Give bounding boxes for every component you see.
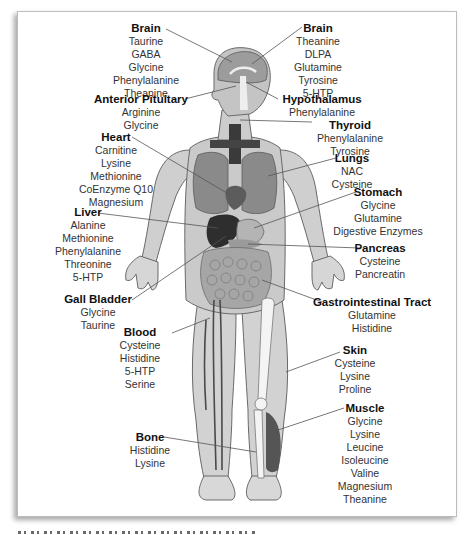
- label-title: Brain: [113, 22, 179, 35]
- label-item: Digestive Enzymes: [333, 225, 422, 238]
- label-gastrointestinal-tract: Gastrointestinal Tract Glutamine Histidi…: [313, 296, 431, 335]
- label-muscle: Muscle Glycine Lysine Leucine Isoleucine…: [338, 402, 392, 506]
- label-item: Theanine: [294, 35, 342, 48]
- label-bone: Bone Histidine Lysine: [130, 431, 170, 470]
- label-item: Glycine: [338, 415, 392, 428]
- intestines: [201, 248, 272, 309]
- label-item: Serine: [120, 378, 161, 391]
- label-item: Glycine: [113, 61, 179, 74]
- label-item: Arginine: [94, 106, 188, 119]
- label-liver: Liver Alanine Methionine Phenylalanine T…: [55, 206, 121, 284]
- label-pancreas: Pancreas Cysteine Pancreatin: [354, 242, 405, 281]
- label-title: Bone: [130, 431, 170, 444]
- label-item: Theanine: [338, 493, 392, 506]
- label-item: Methionine: [79, 170, 153, 183]
- label-item: Glutamine: [313, 309, 431, 322]
- label-title: Pancreas: [354, 242, 405, 255]
- label-item: Cysteine: [335, 357, 376, 370]
- label-skin: Skin Cysteine Lysine Proline: [335, 344, 376, 396]
- label-item: Glycine: [333, 199, 422, 212]
- label-title: Blood: [120, 326, 161, 339]
- label-item: Lysine: [338, 428, 392, 441]
- label-item: Lysine: [79, 157, 153, 170]
- label-title: Lungs: [332, 152, 373, 165]
- label-blood: Blood Cysteine Histidine 5-HTP Serine: [120, 326, 161, 391]
- label-title: Liver: [55, 206, 121, 219]
- label-title: Gastrointestinal Tract: [313, 296, 431, 309]
- label-heart: Heart Carnitine Lysine Methionine CoEnzy…: [79, 131, 153, 209]
- right-hand: [312, 256, 344, 290]
- label-item: Lysine: [130, 457, 170, 470]
- label-anterior-pituitary: Anterior Pituitary Arginine Glycine: [94, 93, 188, 132]
- label-item: Histidine: [120, 352, 161, 365]
- label-item: Phenylalanine: [282, 106, 361, 119]
- label-item: Valine: [338, 467, 392, 480]
- collarbone-vessels: [210, 140, 260, 148]
- right-lung: [242, 152, 277, 213]
- label-item: 5-HTP: [120, 365, 161, 378]
- label-item: Pancreatin: [354, 268, 405, 281]
- left-foot: [199, 476, 235, 500]
- knee: [255, 398, 267, 410]
- left-hand: [126, 256, 158, 290]
- label-item: NAC: [332, 165, 373, 178]
- label-stomach: Stomach Glycine Glutamine Digestive Enzy…: [333, 186, 422, 238]
- label-item: Glutamine: [294, 61, 342, 74]
- label-item: Tyrosine: [294, 74, 342, 87]
- label-brain-right: Brain Theanine DLPA Glutamine Tyrosine 5…: [294, 22, 342, 100]
- label-item: Leucine: [338, 441, 392, 454]
- clipped-caption: [18, 528, 318, 535]
- label-item: Proline: [335, 383, 376, 396]
- label-item: Glutamine: [333, 212, 422, 225]
- label-item: Glycine: [64, 306, 132, 319]
- label-item: GABA: [113, 48, 179, 61]
- label-item: Histidine: [313, 322, 431, 335]
- label-brain-left: Brain Taurine GABA Glycine Phenylalanine…: [113, 22, 179, 100]
- label-item: Lysine: [335, 370, 376, 383]
- label-item: Phenylalanine: [317, 132, 383, 145]
- label-title: Brain: [294, 22, 342, 35]
- label-item: Alanine: [55, 219, 121, 232]
- label-item: DLPA: [294, 48, 342, 61]
- label-title: Thyroid: [317, 119, 383, 132]
- label-item: Phenylalanine: [55, 245, 121, 258]
- label-item: Cysteine: [120, 339, 161, 352]
- label-item: Threonine: [55, 258, 121, 271]
- label-title: Skin: [335, 344, 376, 357]
- leader-skin: [286, 352, 340, 372]
- label-title: Anterior Pituitary: [94, 93, 188, 106]
- leader-thyroid: [240, 120, 312, 122]
- label-item: CoEnzyme Q10: [79, 183, 153, 196]
- label-item: Phenylalanine: [113, 74, 179, 87]
- label-item: Methionine: [55, 232, 121, 245]
- label-title: Gall Bladder: [64, 293, 132, 306]
- label-item: Carnitine: [79, 144, 153, 157]
- leader-muscle: [278, 408, 344, 430]
- right-foot: [246, 476, 281, 500]
- label-item: 5-HTP: [55, 271, 121, 284]
- label-hypothalamus: Hypothalamus Phenylalanine: [282, 93, 361, 119]
- label-item: Cysteine: [354, 255, 405, 268]
- label-title: Hypothalamus: [282, 93, 361, 106]
- label-title: Muscle: [338, 402, 392, 415]
- label-title: Heart: [79, 131, 153, 144]
- label-item: Taurine: [113, 35, 179, 48]
- label-item: Histidine: [130, 444, 170, 457]
- label-title: Stomach: [333, 186, 422, 199]
- label-item: Magnesium: [338, 480, 392, 493]
- label-item: Isoleucine: [338, 454, 392, 467]
